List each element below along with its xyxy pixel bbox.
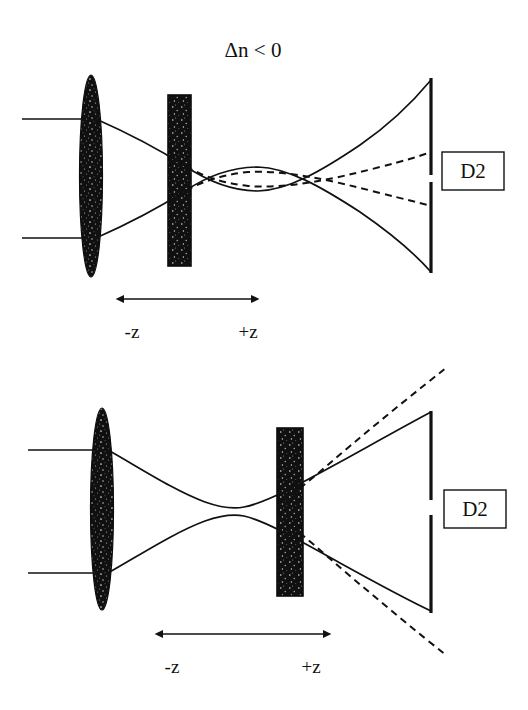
sample-slab: [168, 95, 191, 266]
detector-label-box: D2: [444, 490, 506, 528]
figure-canvas: Δn < 0 D2 -z +z: [0, 0, 528, 710]
detector-label-box: D2: [442, 152, 504, 190]
linear-beam-upper: [96, 80, 431, 191]
z-negative-label: -z: [125, 321, 140, 342]
linear-beam-lower: [108, 515, 431, 611]
bottom-panel: D2 -z +z: [28, 368, 506, 677]
z-positive-label: +z: [238, 321, 257, 342]
lens: [80, 75, 103, 277]
zscan-figure: Δn < 0 D2 -z +z: [0, 0, 528, 710]
sample-slab: [277, 428, 303, 596]
detector-label: D2: [460, 159, 486, 183]
nonlinear-beam-lower: [176, 172, 431, 206]
lens: [91, 408, 114, 610]
figure-title: Δn < 0: [225, 38, 282, 62]
z-positive-label: +z: [301, 656, 320, 677]
linear-beam-upper: [108, 412, 431, 508]
top-panel: D2 -z +z: [22, 75, 504, 342]
linear-beam-lower: [96, 167, 431, 272]
z-negative-label: -z: [165, 656, 180, 677]
detector-label: D2: [462, 497, 488, 521]
nonlinear-beam-upper: [281, 368, 446, 503]
